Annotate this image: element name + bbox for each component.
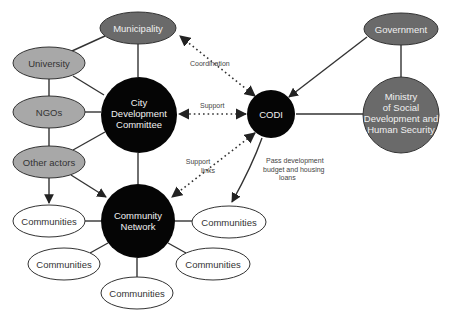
ministry-label-4: Human Security: [367, 124, 435, 135]
node-communities-lowerright: Communities: [176, 248, 250, 280]
ministry-label-1: Ministry: [385, 91, 418, 102]
node-communities-bottom: Communities: [101, 277, 173, 309]
cdc-label-1: City: [131, 97, 148, 108]
codi-label: CODI: [259, 109, 283, 120]
dotted-codi-network: [172, 133, 255, 197]
label-pass-budget-1: Pass development: [266, 157, 324, 165]
arrow-other-network: [71, 175, 106, 197]
government-label: Government: [375, 24, 428, 35]
node-codi: CODI: [247, 90, 295, 138]
node-university: University: [13, 47, 85, 79]
communities-label: Communities: [185, 259, 241, 270]
label-support: Support: [200, 102, 225, 110]
node-government: Government: [364, 13, 438, 45]
communities-label: Communities: [21, 216, 77, 227]
edge-university-cdc: [73, 76, 104, 95]
label-support-links-2: links: [201, 167, 216, 174]
communities-label: Communities: [109, 288, 165, 299]
university-label: University: [28, 58, 70, 69]
edge-municipality-university: [72, 36, 105, 51]
node-communities-right: Communities: [192, 206, 266, 238]
node-communities-left: Communities: [13, 205, 85, 237]
node-other-actors: Other actors: [13, 146, 85, 178]
communities-label: Communities: [36, 259, 92, 270]
node-communities-lowerleft: Communities: [28, 248, 100, 280]
edge-network-communities-lowerleft: [90, 243, 108, 253]
network-label-2: Network: [121, 221, 156, 232]
codi-network-diagram: Coordination Support Support links Pass …: [0, 0, 449, 321]
node-city-development-committee: City Development Committee: [101, 77, 177, 153]
cdc-label-3: Committee: [116, 119, 162, 130]
label-support-links-1: Support: [186, 158, 211, 166]
node-municipality: Municipality: [100, 12, 176, 44]
edge-other-cdc: [73, 132, 105, 150]
ngos-label: NGOs: [36, 107, 63, 118]
label-pass-budget-3: loans: [279, 174, 296, 181]
edge-network-communities-lowerright: [168, 243, 186, 253]
municipality-label: Municipality: [113, 23, 163, 34]
ministry-label-2: of Social: [383, 102, 419, 113]
label-coordination: Coordination: [190, 60, 230, 67]
node-ngos: NGOs: [13, 96, 85, 128]
arrow-government-codi: [289, 37, 367, 97]
communities-label: Communities: [201, 217, 257, 228]
label-pass-budget-2: budget and housing: [263, 166, 325, 174]
other-actors-label: Other actors: [23, 157, 76, 168]
cdc-label-2: Development: [111, 108, 167, 119]
ministry-label-3: Development and: [364, 113, 438, 124]
node-community-network: Community Network: [101, 184, 175, 258]
network-label-1: Community: [114, 210, 162, 221]
node-ministry: Ministry of Social Development and Human…: [363, 77, 439, 153]
